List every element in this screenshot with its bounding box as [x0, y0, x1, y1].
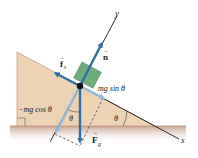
mg-sin-theta-label: mg sin θ — [98, 84, 125, 93]
component-angle-label: θ — [69, 114, 73, 123]
normal-force-label: n → — [103, 48, 109, 62]
x-axis-label: x — [180, 136, 185, 145]
svg-text:→: → — [92, 130, 98, 136]
friction-force-label: f s → — [59, 55, 66, 70]
incline-angle-label: θ — [114, 114, 118, 123]
contact-point — [77, 83, 83, 89]
svg-text:→: → — [59, 55, 65, 61]
ground — [10, 126, 186, 140]
y-axis-label: y — [114, 8, 119, 18]
mg-cos-theta-label: −mg cos θ — [18, 105, 52, 114]
svg-text:g: g — [98, 141, 101, 147]
svg-text:s: s — [64, 64, 66, 70]
svg-text:→: → — [103, 48, 109, 54]
incline-free-body-diagram: y x n → f s → mg sin θ −mg cos θ F g → θ… — [0, 0, 198, 158]
